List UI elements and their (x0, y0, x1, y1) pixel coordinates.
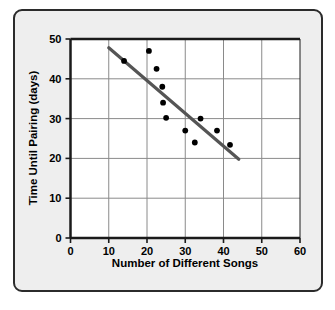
data-point (214, 128, 220, 134)
y-tick-label: 20 (49, 152, 61, 164)
data-point (182, 128, 188, 134)
y-axis-title: Time Until Pairing (days) (27, 71, 39, 206)
y-tick-label: 30 (49, 113, 61, 125)
chart-canvas: 0102030405060 01020304050 Number of Diff… (0, 0, 335, 310)
scatter-plot-figure: 0102030405060 01020304050 Number of Diff… (0, 0, 335, 310)
y-tick-label: 50 (49, 33, 61, 45)
x-tick-label: 0 (67, 245, 73, 257)
y-tick-label: 0 (55, 232, 61, 244)
x-tick-label: 20 (141, 245, 153, 257)
data-point (160, 100, 166, 106)
data-point (163, 115, 169, 121)
y-tick-labels: 01020304050 (49, 33, 61, 244)
x-tick-label: 10 (103, 245, 115, 257)
data-point (192, 140, 198, 146)
y-tick-label: 10 (49, 192, 61, 204)
x-tick-label: 50 (256, 245, 268, 257)
y-tick-label: 40 (49, 73, 61, 85)
data-point (146, 48, 152, 54)
data-point (227, 142, 233, 148)
x-tick-label: 40 (217, 245, 229, 257)
x-tick-labels: 0102030405060 (67, 245, 306, 257)
data-point (121, 58, 127, 64)
data-point (159, 84, 165, 90)
data-point (154, 66, 160, 72)
x-axis-title: Number of Different Songs (112, 257, 258, 269)
x-tick-label: 60 (294, 245, 306, 257)
x-tick-label: 30 (179, 245, 191, 257)
data-point (198, 116, 204, 122)
